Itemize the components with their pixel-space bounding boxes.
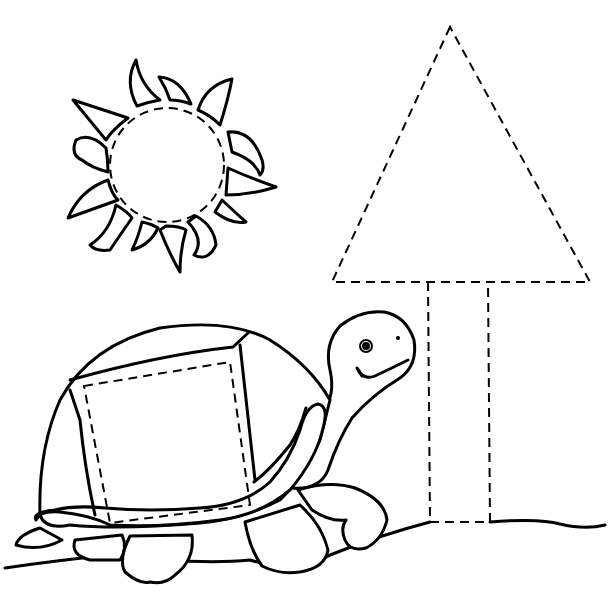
trace-rectangle: [428, 282, 490, 522]
trace-triangle: [332, 27, 590, 282]
worksheet-canvas: [0, 0, 616, 603]
trace-circle: [110, 108, 224, 222]
tree-shape: [332, 27, 590, 522]
turtle-icon: [16, 312, 415, 583]
sun-icon: [68, 60, 276, 272]
